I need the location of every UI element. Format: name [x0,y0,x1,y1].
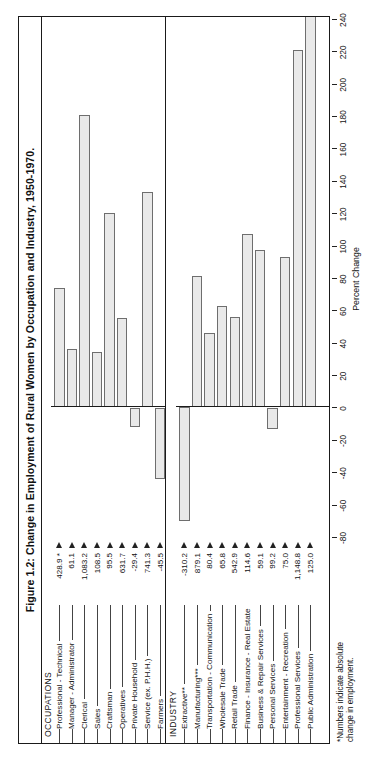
value-label: 428.9 * [55,549,64,603]
chart-row: Clerical1,083.2 [78,17,91,743]
category-label: Manager - Administrator [67,603,76,743]
chart-row: Extractive**-310.2 [178,17,191,743]
industry-rows: Extractive**-310.2Manufacturing***879.1T… [178,17,329,743]
bar [155,408,165,479]
bar [255,250,265,407]
figure-title-bar: Figure 1.2: Change in Employment of Rura… [19,17,42,743]
bar [242,234,252,407]
bar [230,317,240,408]
axis-tick [332,149,337,150]
value-arrow-icon [203,537,216,549]
axis-tick-label: 100 [338,240,348,254]
axis-tick-label: -20 [338,435,348,447]
figure-frame: Figure 1.2: Change in Employment of Rura… [18,16,330,744]
value-label: 95.5 [105,549,114,603]
axis-tick [332,246,337,247]
chart-row: Manager - Administrator61.1 [66,17,79,743]
bar-track [66,17,79,537]
axis-tick [332,116,337,117]
chart-row: Farmers-45.5 [154,17,166,743]
axis-tick [332,537,337,538]
bar [204,333,214,407]
value-label: 741.3 [143,549,152,603]
value-arrow-icon [254,537,267,549]
bar-track [154,17,166,537]
axis-tick-label: 40 [338,339,348,348]
chart-row: Craftsman95.5 [103,17,116,743]
bar-track [254,17,267,537]
bar [293,50,303,408]
value-label: 59.1 [256,549,265,603]
axis-tick-label: 120 [338,207,348,221]
value-arrow-icon [304,537,317,549]
category-label: Personal Services [268,603,277,743]
axis-tick [332,84,337,85]
bar [305,17,315,408]
value-label: -310.2 [180,549,189,603]
category-label: Finance - Insurance - Real Estate [243,603,252,743]
value-label: 1,148.8 [293,549,302,603]
category-label: Entertainment - Recreation [281,603,290,743]
footnote-line-1: *Numbers indicate absolute [336,552,346,742]
chart-row: Transportation - Communication80.4 [203,17,216,743]
value-label: 125.0 [306,549,315,603]
value-arrow-icon [279,537,292,549]
value-arrow-icon [241,537,254,549]
bar [67,349,77,407]
axis-tick [332,408,337,409]
axis-title: Percent Change [351,247,361,311]
chart-row: Professional Services1,148.8 [291,17,304,743]
value-label: 631.7 [118,549,127,603]
page-title: Figure 1.2: Change in Employment of Rura… [24,148,36,612]
axis-tick [332,310,337,311]
bar [92,352,102,407]
axis-tick-label: 200 [338,78,348,92]
chart-row: Entertainment - Recreation75.0 [279,17,292,743]
bar-track [116,17,129,537]
panels-container: OCCUPATIONS Professional - Technical428.… [41,17,329,743]
bar [104,213,114,407]
bar-track [279,17,292,537]
value-label: 80.4 [205,549,214,603]
axis-tick [332,19,337,20]
panel-industry: INDUSTRY Extractive**-310.2Manufacturing… [166,17,329,743]
value-label: 75.0 [281,549,290,603]
zero-axis-line-industry [176,406,329,407]
category-label: Clerical [80,603,89,743]
chart-row: Professional - Technical428.9 * [53,17,66,743]
bar-track [191,17,204,537]
bar-track [304,17,317,537]
bar-track [103,17,116,537]
bar [130,408,140,427]
axis-tick-label: 140 [338,175,348,189]
chart-row: Operatives631.7 [116,17,129,743]
bar [117,318,127,407]
chart-row: Sales108.5 [91,17,104,743]
category-label: Manufacturing*** [193,603,202,743]
bar [54,288,64,408]
bar [267,408,277,429]
bar-track [266,17,279,537]
value-arrow-icon [229,537,242,549]
chart-row: Business & Repair Services59.1 [254,17,267,743]
axis-tick-label: -60 [338,500,348,512]
value-label: 99.2 [268,549,277,603]
value-arrow-icon [154,537,166,549]
axis-tick [332,505,337,506]
value-arrow-icon [266,537,279,549]
bar-track [203,17,216,537]
axis-tick-label: -40 [338,467,348,479]
bar [217,306,227,408]
value-label: -45.5 [156,549,165,603]
chart-row: Manufacturing***879.1 [191,17,204,743]
value-arrow-icon [78,537,91,549]
chart-row: Finance - Insurance - Real Estate114.6 [241,17,254,743]
value-arrow-icon [291,537,304,549]
axis-tick-label: 180 [338,110,348,124]
category-label: Operatives [118,603,127,743]
value-arrow-icon [66,537,79,549]
bar-track [229,17,242,537]
bar-track [91,17,104,537]
value-arrow-icon [141,537,154,549]
value-arrow-icon [216,537,229,549]
